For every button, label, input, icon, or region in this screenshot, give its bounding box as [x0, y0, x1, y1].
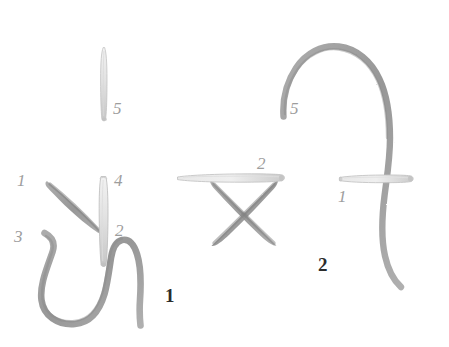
vertical-needle-figure-1 — [99, 177, 108, 267]
point-label-5-top: 5 — [113, 100, 122, 117]
point-label-3-figure-1: 3 — [14, 228, 23, 245]
thread-arc-figure-2 — [283, 46, 401, 287]
point-label-4-figure-1: 4 — [114, 172, 123, 189]
horizontal-needle-over-cross — [178, 174, 285, 182]
horizontal-needle-figure-2 — [339, 175, 413, 183]
point-label-2-figure-2: 2 — [257, 155, 266, 172]
vertical-needle-top — [101, 48, 107, 122]
thread-loop-figure-1 — [41, 233, 140, 326]
sketch-canvas: 5 1 3 4 2 2 5 1 1 2 — [0, 0, 449, 347]
cross-stitch-x — [210, 180, 278, 246]
figure-number-1: 1 — [165, 286, 175, 305]
point-label-2-figure-1: 2 — [115, 222, 124, 239]
point-label-5-figure-2: 5 — [290, 100, 299, 117]
figure-number-2: 2 — [318, 255, 328, 274]
pencil-artwork-layer — [0, 0, 449, 347]
point-label-1-figure-2: 1 — [338, 188, 347, 205]
point-label-1-figure-1: 1 — [17, 172, 26, 189]
diagonal-stitch-stroke — [46, 181, 104, 235]
